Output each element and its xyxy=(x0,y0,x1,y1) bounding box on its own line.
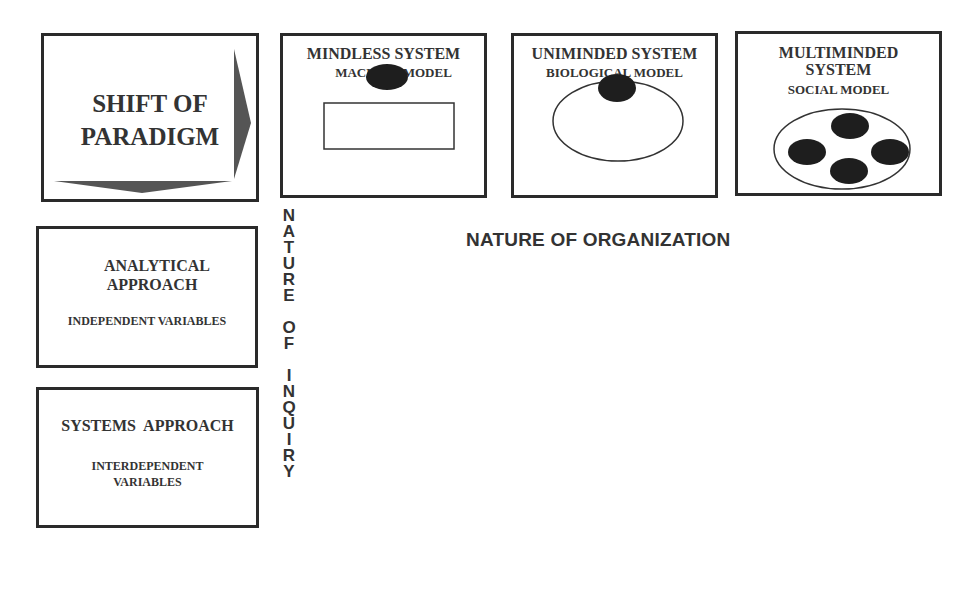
analytical-title-line1: ANALYTICAL xyxy=(59,258,255,275)
multiminded-system-box: MULTIMINDED SYSTEM SOCIAL MODEL xyxy=(735,31,942,196)
interdependent-label-line1: INTERDEPENDENT xyxy=(39,460,256,473)
vertical-letter: F xyxy=(280,336,298,352)
mindless-system-box: MINDLESS SYSTEM MACHINE MODEL xyxy=(280,33,487,198)
arrow-down-icon xyxy=(54,181,232,193)
independent-variables-label: INDEPENDENT VARIABLES xyxy=(39,315,255,328)
analytical-approach-box: ANALYTICAL APPROACH INDEPENDENT VARIABLE… xyxy=(36,226,258,368)
vertical-letter: Y xyxy=(280,464,298,480)
filled-oval-icon xyxy=(366,64,408,90)
filled-oval-right-icon xyxy=(871,139,909,165)
uniminded-system-box: UNIMINDED SYSTEM BIOLOGICAL MODEL xyxy=(511,33,718,198)
systems-approach-title: SYSTEMS APPROACH xyxy=(39,418,256,435)
arrow-right-icon xyxy=(234,49,251,179)
biological-model-figure xyxy=(514,36,715,195)
filled-oval-bottom-icon xyxy=(830,158,868,184)
shift-of-paradigm-box: SHIFT OF PARADIGM xyxy=(41,33,259,202)
filled-oval-icon xyxy=(598,74,636,102)
vertical-letter: E xyxy=(280,288,298,304)
nature-of-inquiry-label: NATUREOFINQUIRY xyxy=(280,208,298,480)
rectangle-icon xyxy=(324,103,454,149)
social-model-figure xyxy=(738,34,939,193)
systems-approach-box: SYSTEMS APPROACH INTERDEPENDENT VARIABLE… xyxy=(36,387,259,528)
analytical-title-line2: APPROACH xyxy=(49,277,255,294)
filled-oval-top-icon xyxy=(831,113,869,139)
machine-model-figure xyxy=(283,36,484,195)
nature-of-organization-label: NATURE OF ORGANIZATION xyxy=(466,229,730,251)
paradigm-arrows xyxy=(44,36,256,199)
interdependent-label-line2: VARIABLES xyxy=(39,476,256,489)
filled-oval-left-icon xyxy=(788,139,826,165)
